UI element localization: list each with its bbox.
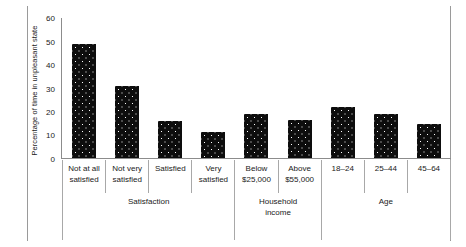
bar[interactable] xyxy=(72,44,96,158)
group-label: Satisfaction xyxy=(63,193,235,240)
category-label: 18–24 xyxy=(321,160,364,193)
group-label: Age xyxy=(321,193,450,240)
group-label: Household income xyxy=(235,193,321,240)
plot-area: 60 50 40 30 20 10 0 xyxy=(61,18,451,159)
bar-cell xyxy=(148,18,191,158)
bar-cell xyxy=(365,18,408,158)
bar[interactable] xyxy=(115,86,139,158)
category-label-row: Not at all satisfiedNot very satisfiedSa… xyxy=(63,160,451,193)
bar[interactable] xyxy=(417,124,441,158)
group-label-row: SatisfactionHousehold incomeAge xyxy=(63,193,451,240)
y-tick-10: 10 xyxy=(29,131,61,140)
y-tick-50: 50 xyxy=(29,37,61,46)
bar-cell xyxy=(62,18,105,158)
bar[interactable] xyxy=(288,120,312,159)
category-label: 25–44 xyxy=(364,160,407,193)
category-label: Not very satisfied xyxy=(106,160,149,193)
bar[interactable] xyxy=(374,114,398,158)
category-label-table: Not at all satisfiedNot very satisfiedSa… xyxy=(62,160,451,240)
bar[interactable] xyxy=(201,132,225,158)
bar-series xyxy=(62,18,451,158)
category-label: Below $25,000 xyxy=(235,160,278,193)
y-tick-20: 20 xyxy=(29,108,61,117)
bar[interactable] xyxy=(158,121,182,158)
category-label: Not at all satisfied xyxy=(63,160,106,193)
y-tick-40: 40 xyxy=(29,60,61,69)
bar-cell xyxy=(235,18,278,158)
y-tick-60: 60 xyxy=(29,14,61,23)
category-label: Very satisfied xyxy=(192,160,235,193)
bar-chart-figure: Percentage of time in unpleasant state 6… xyxy=(0,0,466,247)
category-label: Above $55,000 xyxy=(278,160,321,193)
bar[interactable] xyxy=(331,107,355,158)
bar-cell xyxy=(321,18,364,158)
bar[interactable] xyxy=(244,114,268,158)
y-tick-30: 30 xyxy=(29,84,61,93)
category-label: Satisfied xyxy=(149,160,192,193)
bar-cell xyxy=(105,18,148,158)
y-tick-0: 0 xyxy=(29,155,61,164)
bar-cell xyxy=(192,18,235,158)
category-label: 45–64 xyxy=(407,160,450,193)
bar-cell xyxy=(278,18,321,158)
x-axis-line xyxy=(61,158,451,159)
bar-cell xyxy=(408,18,451,158)
